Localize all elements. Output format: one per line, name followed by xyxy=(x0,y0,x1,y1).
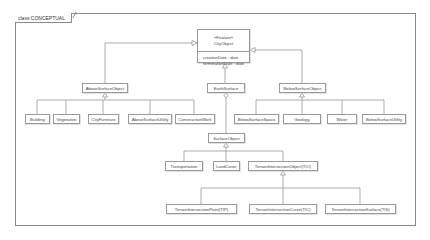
class-earthsurface[interactable]: EarthSurface xyxy=(207,83,245,93)
class-constructionwork[interactable]: ConstructionWork xyxy=(175,114,215,124)
class-cityfurniture[interactable]: CityFurniture xyxy=(88,114,119,124)
class-terrainintersectionobject[interactable]: TerrainIntersectionObject(TIO) xyxy=(248,161,318,171)
class-abovesurfaceutility[interactable]: AboveSurfaceUtility xyxy=(128,114,172,124)
class-belowsurfaceutility[interactable]: BelowSurfaceUtility xyxy=(362,114,406,124)
class-abovesurfaceobject[interactable]: AboveSurfaceObject xyxy=(82,83,128,93)
class-transportation[interactable]: Transportation xyxy=(165,161,203,171)
class-cityobject[interactable]: «Feature» CityObject creationDate : date… xyxy=(197,29,250,63)
attribute: terminationDate : date xyxy=(203,61,249,67)
class-surfaceobject[interactable]: SurfaceObject xyxy=(208,133,245,143)
class-landcover[interactable]: LandCover xyxy=(213,161,240,171)
class-belowsurfacespace[interactable]: BelowSurfaceSpace xyxy=(234,114,279,124)
class-header: «Feature» CityObject xyxy=(198,30,249,52)
class-vegetation[interactable]: Vegetation xyxy=(53,114,80,124)
class-terrainintersectioncurve[interactable]: TerrainIntersectionCurve(TIC) xyxy=(249,204,317,214)
attribute-list: creationDate : date terminationDate : da… xyxy=(198,52,249,66)
class-name: CityObject xyxy=(214,41,233,47)
class-geology[interactable]: Geology xyxy=(283,114,321,124)
class-water[interactable]: Water xyxy=(327,114,357,124)
class-belowsurfaceobject[interactable]: BelowSurfaceObject xyxy=(279,83,326,93)
class-building[interactable]: Building xyxy=(25,114,50,124)
class-terrainintersectionpoint[interactable]: TerrainIntersectionPoint(TIP) xyxy=(166,204,237,214)
class-terrainintersectionsurface[interactable]: TerrainIntersectionSurface(TIS) xyxy=(325,204,396,214)
